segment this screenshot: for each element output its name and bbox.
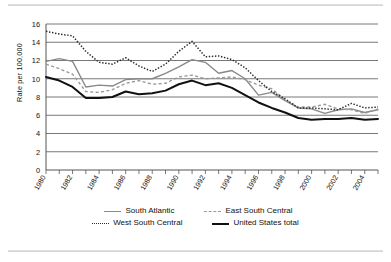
legend-item-south-atlantic[interactable]: South Atlantic [104,206,174,215]
x-axis-tick-label: 1980 [32,174,48,192]
x-axis-tick-label: 2002 [324,174,340,192]
line-style-solid-bold-icon [212,219,229,227]
line-style-solid-icon [104,207,121,215]
x-axis-tick-label: 1982 [58,174,74,192]
y-axis-tick-label: 10 [32,75,40,84]
line-style-dotted-icon [92,219,109,227]
y-axis-tick-label: 4 [36,129,40,138]
line-chart-svg: 0246810121416198019821984198619881990199… [0,0,391,200]
legend-label-united-states-total: United States total [233,218,298,227]
x-axis-tick-label: 2004 [351,174,367,192]
legend-item-east-south-central[interactable]: East South Central [204,206,292,215]
x-axis-tick-label: 1994 [218,174,234,192]
y-axis-tick-label: 14 [32,38,40,47]
series-line-united-states-total [46,77,378,120]
x-axis-tick-label: 1996 [244,174,260,192]
y-axis-tick-label: 8 [36,93,40,102]
y-axis-tick-label: 6 [36,111,40,120]
legend-item-west-south-central[interactable]: West South Central [92,218,182,227]
legend-label-west-south-central: West South Central [113,218,182,227]
x-axis-tick-label: 2000 [298,174,314,192]
legend-item-united-states-total[interactable]: United States total [212,218,298,227]
series-line-south-atlantic [46,59,378,114]
legend-label-south-atlantic: South Atlantic [125,206,174,215]
x-axis-tick-label: 1988 [138,174,154,192]
legend-row-1: South Atlantic East South Central [0,206,391,215]
line-style-dashed-icon [204,207,221,215]
x-axis-tick-label: 1990 [165,174,181,192]
x-axis-tick-label: 1992 [191,174,207,192]
x-axis-tick-label: 1986 [112,174,128,192]
legend-label-east-south-central: East South Central [225,206,292,215]
chart-figure: 0246810121416198019821984198619881990199… [0,0,391,262]
x-axis-tick-label: 1984 [85,174,101,192]
y-axis-tick-label: 12 [32,56,40,65]
chart-legend: South Atlantic East South Central West S… [0,206,391,230]
y-axis-label: Rate per 100,000 [15,18,24,128]
x-axis-tick-label: 1998 [271,174,287,192]
series-line-east-south-central [46,64,378,113]
legend-row-2: West South Central United States total [0,218,391,227]
y-axis-tick-label: 2 [36,148,40,157]
y-axis-tick-label: 16 [32,20,40,29]
